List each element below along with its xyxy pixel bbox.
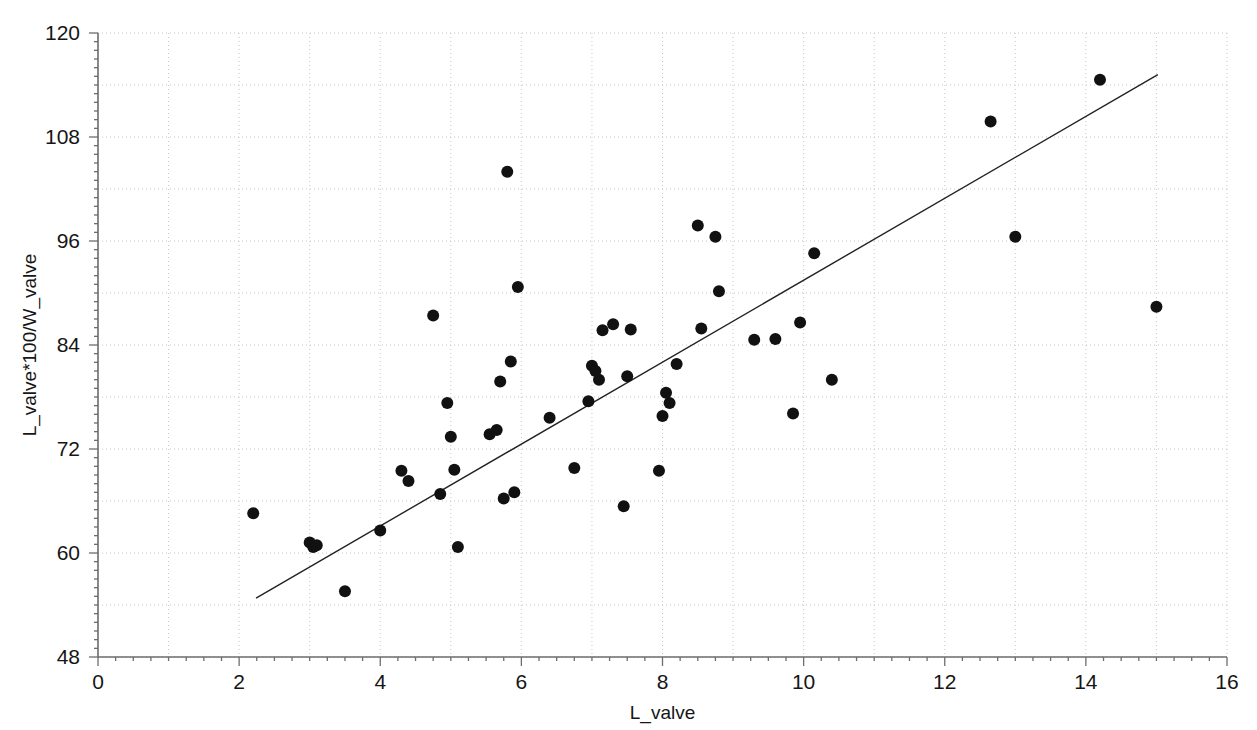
y-tick-label: 60 (57, 541, 80, 564)
data-point (597, 324, 609, 336)
data-point (582, 395, 594, 407)
data-point (494, 375, 506, 387)
y-axis-title: L_valve*100/W_valve (19, 254, 41, 437)
data-point (544, 412, 556, 424)
x-tick-label: 12 (933, 670, 956, 693)
data-point (713, 285, 725, 297)
data-point (660, 387, 672, 399)
data-point (427, 310, 439, 322)
data-point (505, 355, 517, 367)
y-tick-label: 84 (57, 333, 81, 356)
data-point (748, 334, 760, 346)
data-point (395, 465, 407, 477)
axis-ticks (89, 33, 1227, 666)
data-point (808, 247, 820, 259)
data-point (441, 397, 453, 409)
data-point (1094, 74, 1106, 86)
data-point (1009, 231, 1021, 243)
data-point (769, 333, 781, 345)
data-point (794, 316, 806, 328)
data-point (657, 410, 669, 422)
data-point (498, 492, 510, 504)
x-tick-label: 10 (792, 670, 815, 693)
data-point (402, 475, 414, 487)
data-point (434, 488, 446, 500)
data-point (709, 231, 721, 243)
data-point (568, 462, 580, 474)
data-point (1150, 301, 1162, 313)
plot-canvas: 02468101214164860728496108120 L_valve L_… (0, 0, 1257, 730)
data-point (448, 464, 460, 476)
y-tick-label: 48 (57, 645, 80, 668)
data-point (593, 374, 605, 386)
data-point (787, 407, 799, 419)
x-tick-label: 2 (233, 670, 245, 693)
data-point (452, 541, 464, 553)
x-axis-title: L_valve (630, 702, 696, 724)
data-point (508, 486, 520, 498)
data-point (692, 219, 704, 231)
tick-labels: 02468101214164860728496108120 (45, 21, 1239, 693)
x-tick-label: 6 (516, 670, 528, 693)
data-point (311, 539, 323, 551)
data-point (664, 397, 676, 409)
data-point (625, 323, 637, 335)
data-point (374, 524, 386, 536)
x-tick-label: 0 (92, 670, 104, 693)
data-point (671, 358, 683, 370)
data-point (826, 374, 838, 386)
y-tick-label: 108 (45, 125, 80, 148)
y-tick-label: 72 (57, 437, 80, 460)
grid-lines (98, 33, 1227, 657)
y-tick-label: 96 (57, 229, 80, 252)
x-tick-label: 4 (374, 670, 386, 693)
data-point (607, 318, 619, 330)
data-point (247, 507, 259, 519)
data-point (445, 431, 457, 443)
data-point (339, 585, 351, 597)
data-point (512, 281, 524, 293)
scatter-chart: 02468101214164860728496108120 L_valve L_… (0, 0, 1257, 730)
y-tick-label: 120 (45, 21, 80, 44)
data-point (501, 166, 513, 178)
data-point (653, 465, 665, 477)
data-point (695, 323, 707, 335)
x-tick-label: 14 (1074, 670, 1098, 693)
data-point (621, 370, 633, 382)
data-point (618, 500, 630, 512)
trend-line (256, 75, 1158, 598)
data-point (491, 424, 503, 436)
x-tick-label: 16 (1215, 670, 1238, 693)
x-tick-label: 8 (657, 670, 669, 693)
data-point (985, 115, 997, 127)
